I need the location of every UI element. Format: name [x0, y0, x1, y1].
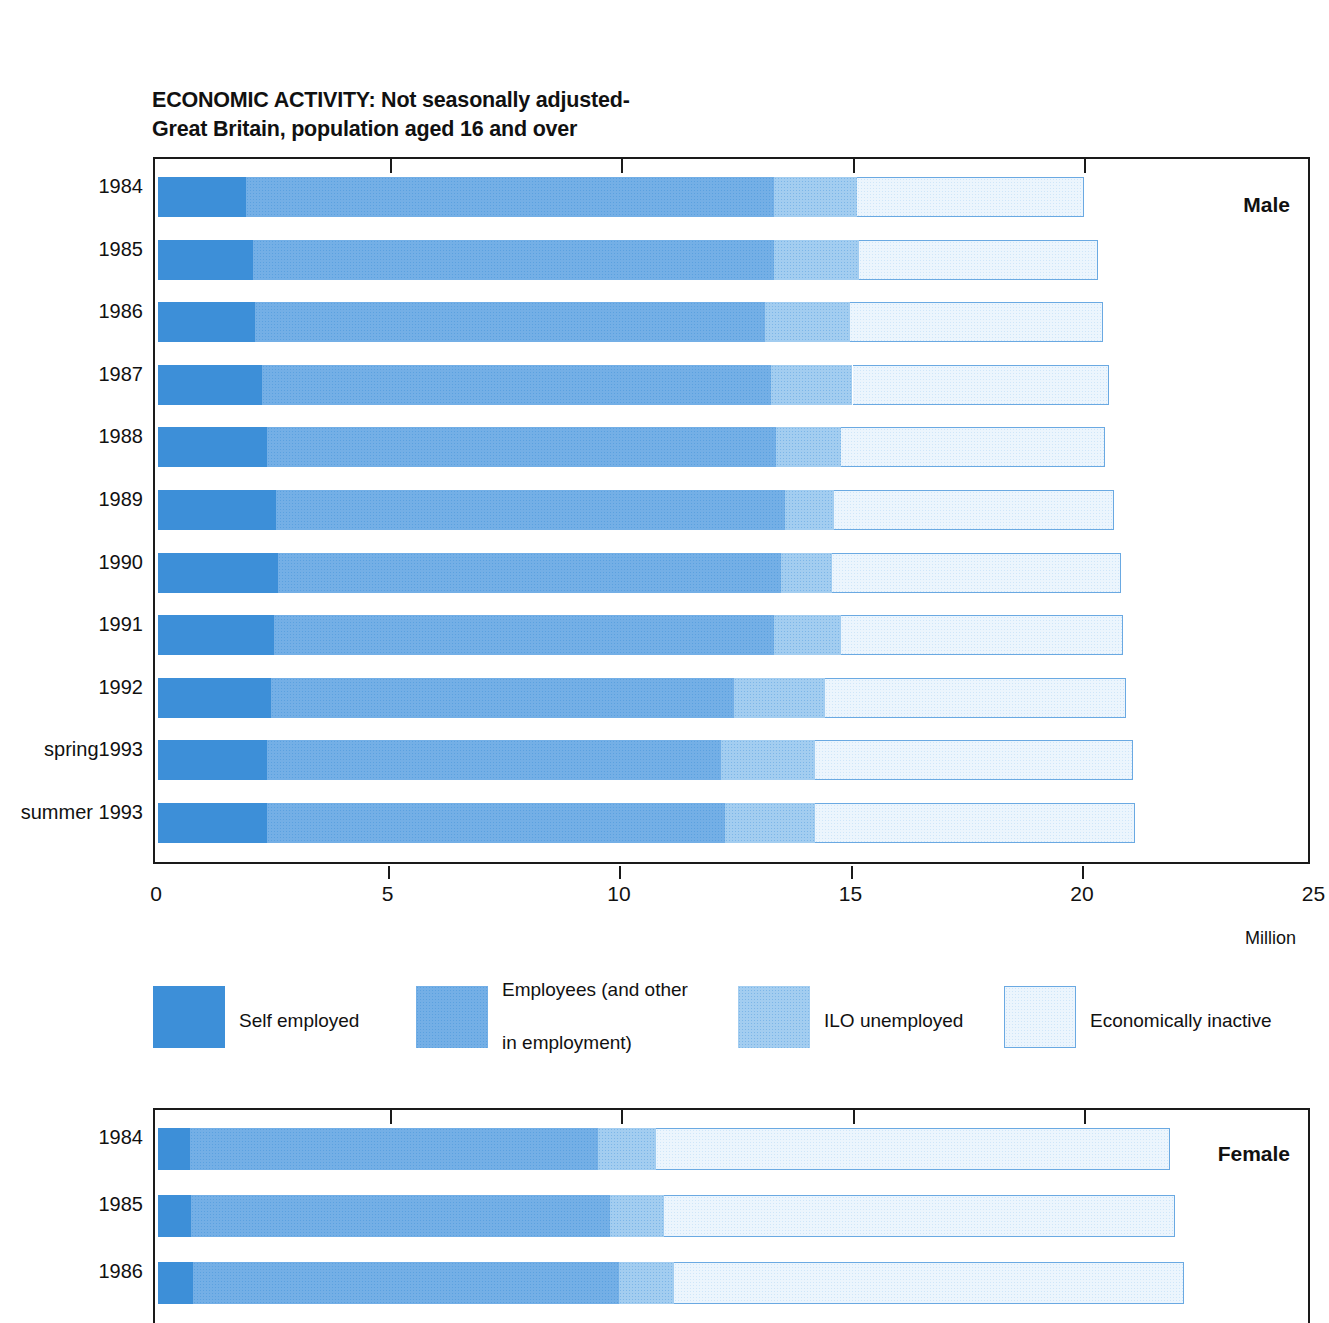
bar-segment-inact [859, 240, 1097, 280]
bar-segment-emp [190, 1128, 597, 1170]
axis-tick-label: 25 [1302, 882, 1325, 906]
male-chart-plot-area: Male [153, 157, 1310, 864]
bar-segment-emp [262, 365, 771, 405]
bar-segment-self [158, 1195, 191, 1237]
axis-tick-top [621, 159, 623, 173]
bar-segment-ilo [781, 553, 832, 593]
axis-tick-label: 5 [382, 882, 394, 906]
table-row [155, 490, 1312, 530]
axis-tick-top [390, 1110, 392, 1124]
bar-segment-inact [834, 490, 1114, 530]
bar-segment-ilo [721, 740, 816, 780]
bar-segment-inact [674, 1262, 1183, 1304]
bar-segment-emp [191, 1195, 610, 1237]
female-panel-label: Female [1218, 1142, 1290, 1166]
legend-swatch-self-employed [153, 986, 225, 1048]
bar-segment-ilo [774, 615, 841, 655]
bar-segment-self [158, 740, 267, 780]
category-label: 1985 [99, 238, 144, 261]
category-label: 1985 [99, 1193, 144, 1216]
category-label: 1991 [99, 613, 144, 636]
axis-tick-label: 15 [839, 882, 862, 906]
axis-tick-label: 20 [1070, 882, 1093, 906]
bar-segment-self [158, 1128, 190, 1170]
bar-segment-self [158, 553, 278, 593]
bar-segment-emp [267, 803, 725, 843]
bar-segment-emp [271, 678, 734, 718]
bar-segment-inact [656, 1128, 1170, 1170]
bar-segment-ilo [619, 1262, 675, 1304]
category-label: 1984 [99, 175, 144, 198]
bar-segment-inact [832, 553, 1121, 593]
bar-segment-ilo [725, 803, 815, 843]
bar-segment-emp [246, 177, 774, 217]
bar-segment-ilo [598, 1128, 656, 1170]
legend-item-ilo-unemployed: ILO unemployed [738, 978, 988, 1056]
legend-swatch-ilo-unemployed [738, 986, 810, 1048]
category-label: spring1993 [44, 738, 143, 761]
axis-tick-top [621, 1110, 623, 1124]
table-row [155, 365, 1312, 405]
table-row [155, 1262, 1312, 1304]
bar-segment-self [158, 803, 267, 843]
bar-segment-self [158, 302, 255, 342]
bar-segment-ilo [734, 678, 824, 718]
bar-segment-inact [815, 740, 1132, 780]
bar-segment-inact [815, 803, 1134, 843]
chart-title-line-1: ECONOMIC ACTIVITY: Not seasonally adjust… [152, 86, 912, 115]
legend-label-economically-inactive: Economically inactive [1090, 1006, 1329, 1035]
bar-segment-emp [267, 740, 721, 780]
axis-tick-top [390, 159, 392, 173]
bar-segment-ilo [774, 177, 857, 217]
bar-segment-ilo [610, 1195, 663, 1237]
table-row [155, 803, 1312, 843]
bar-segment-emp [274, 615, 774, 655]
bar-segment-inact [850, 302, 1102, 342]
bar-segment-ilo [765, 302, 851, 342]
legend-label-employees: Employees (and other [502, 975, 752, 1004]
axis-tick-top [853, 1110, 855, 1124]
bar-segment-self [158, 615, 274, 655]
table-row [155, 240, 1312, 280]
axis-tick [851, 866, 853, 879]
category-label: 1988 [99, 425, 144, 448]
axis-tick [619, 866, 621, 879]
bar-segment-emp [276, 490, 785, 530]
table-row [155, 553, 1312, 593]
bar-segment-self [158, 1262, 193, 1304]
chart-title: ECONOMIC ACTIVITY: Not seasonally adjust… [152, 86, 912, 143]
category-label: 1989 [99, 488, 144, 511]
axis-tick-label: 0 [150, 882, 162, 906]
bar-segment-inact [664, 1195, 1176, 1237]
male-bar-rows [155, 159, 1308, 862]
bar-segment-ilo [776, 427, 841, 467]
bar-segment-emp [278, 553, 780, 593]
legend-label-employees-line-2: in employment) [502, 1028, 752, 1057]
bar-segment-self [158, 365, 262, 405]
table-row [155, 177, 1312, 217]
table-row [155, 678, 1312, 718]
bar-segment-emp [267, 427, 776, 467]
bar-segment-self [158, 490, 276, 530]
bar-segment-emp [193, 1262, 619, 1304]
axis-tick [1082, 866, 1084, 879]
legend-swatch-economically-inactive [1004, 986, 1076, 1048]
bar-segment-inact [825, 678, 1126, 718]
bar-segment-inact [857, 177, 1084, 217]
category-label: 1984 [99, 1126, 144, 1149]
axis-tick-top [853, 159, 855, 173]
category-label: 1987 [99, 363, 144, 386]
bar-segment-self [158, 678, 271, 718]
female-chart-plot-area: Female [153, 1108, 1310, 1323]
table-row [155, 302, 1312, 342]
axis-tick-top [1084, 1110, 1086, 1124]
legend-swatch-employees [416, 986, 488, 1048]
bar-segment-inact [841, 615, 1123, 655]
bar-segment-ilo [771, 365, 852, 405]
axis-tick [388, 866, 390, 879]
bar-segment-emp [253, 240, 774, 280]
chart-legend: Self employed Employees (and other in em… [153, 978, 1313, 1056]
bar-segment-self [158, 177, 246, 217]
bar-segment-self [158, 240, 253, 280]
category-label: 1986 [99, 1260, 144, 1283]
